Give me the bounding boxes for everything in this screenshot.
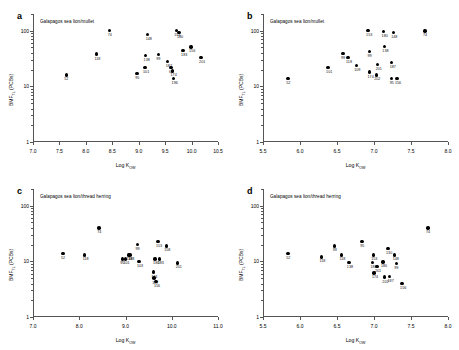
data-point [372, 253, 375, 256]
data-point [400, 282, 403, 285]
data-point [372, 271, 375, 274]
y-minor-tick [261, 264, 263, 265]
y-tick-mark [260, 261, 263, 262]
x-axis-label-d: Log KOW [263, 337, 448, 345]
y-minor-tick [261, 267, 263, 268]
y-minor-tick [261, 208, 263, 209]
x-tick-label: 6.0 [286, 323, 314, 329]
data-point-label: 180 [381, 264, 387, 268]
data-point-label: 130 [386, 251, 392, 255]
x-tick-label: 5.5 [249, 323, 277, 329]
y-minor-tick [261, 300, 263, 301]
data-point [340, 253, 343, 256]
x-tick-label: 8.0 [434, 323, 459, 329]
data-point [286, 252, 289, 255]
x-tick-label: 7.0 [360, 323, 388, 329]
y-minor-tick [261, 270, 263, 271]
data-point [386, 247, 389, 250]
y-tick-mark [260, 206, 263, 207]
data-point [375, 265, 378, 268]
y-tick-label: 100 [239, 203, 259, 209]
data-point-label: 95 [360, 244, 364, 248]
data-point-label: 174 [372, 275, 378, 279]
panel-title-d: Galapagos sea lion/thread herring [270, 194, 341, 199]
y-minor-tick [261, 228, 263, 229]
y-tick-mark [260, 317, 263, 318]
x-tick-mark [411, 317, 412, 320]
y-tick-label: 10 [239, 258, 259, 264]
x-tick-mark [263, 317, 264, 320]
y-axis-label-d: BMFTL (PCBs) [238, 249, 246, 281]
y-minor-tick [261, 235, 263, 236]
y-minor-tick [261, 274, 263, 275]
data-point [383, 275, 386, 278]
data-point-label: 156 [400, 286, 406, 290]
y-minor-tick [261, 245, 263, 246]
panel-d: dGalapagos sea lion/thread herringBMFTL … [0, 0, 459, 350]
y-minor-tick [261, 278, 263, 279]
panel-letter-d: d [247, 186, 253, 196]
y-tick-label: 1 [239, 314, 259, 320]
y-minor-tick [261, 218, 263, 219]
data-point-label: 118 [339, 257, 345, 261]
data-point [426, 226, 429, 229]
y-minor-tick [261, 284, 263, 285]
data-point-label: 99 [333, 248, 337, 252]
y-minor-tick [261, 214, 263, 215]
data-point-label: 201 [375, 269, 381, 273]
plot-area-d [263, 189, 448, 317]
data-point-label: 187 [388, 279, 394, 283]
y-minor-tick [261, 211, 263, 212]
y-minor-tick [261, 290, 263, 291]
y-minor-tick [261, 222, 263, 223]
data-point [320, 255, 323, 258]
y-minor-tick [261, 189, 263, 190]
data-point [347, 261, 350, 264]
x-tick-mark [337, 317, 338, 320]
data-point-label: 148 [393, 257, 399, 261]
data-point-label: 138 [347, 265, 353, 269]
x-tick-mark [448, 317, 449, 320]
data-point [381, 260, 384, 263]
data-point-label: 118 [319, 259, 325, 263]
figure-canvas: aGalapagos sea lion/mulletBMFTL (PCBs)Lo… [0, 0, 459, 350]
x-tick-label: 6.5 [323, 323, 351, 329]
data-point-label: 52 [286, 256, 290, 260]
data-point-label: 74 [426, 230, 430, 234]
data-point-label: 99 [394, 266, 398, 270]
x-tick-mark [300, 317, 301, 320]
data-point [395, 262, 398, 265]
data-point [360, 240, 363, 243]
x-tick-mark [374, 317, 375, 320]
x-tick-label: 7.5 [397, 323, 425, 329]
